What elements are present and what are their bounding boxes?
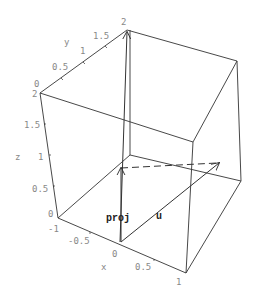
y-tick-2: 2 (121, 17, 126, 27)
z-tick-2: 2 (32, 89, 37, 99)
x-tick-1: 1 (176, 277, 181, 287)
x-tick-0.5: 0.5 (135, 262, 151, 272)
y-tick-1.5: 1.5 (93, 31, 109, 41)
x-axis-label: x (101, 262, 107, 272)
y-tick-1: 1 (80, 46, 85, 56)
x-tick--1: -1 (48, 224, 59, 234)
z-tick-1.5: 1.5 (24, 120, 40, 130)
vectors (120, 32, 219, 242)
y-axis-label: y (64, 37, 70, 47)
y-tick-0.5: 0.5 (52, 62, 68, 72)
u-label: u (156, 211, 162, 222)
x-tick-0: 0 (112, 249, 117, 259)
z-tick-0.5: 0.5 (32, 184, 48, 194)
x-tick--0.5: -0.5 (68, 236, 90, 246)
z-tick-0: 0 (48, 209, 53, 219)
proj-label: proj (106, 213, 130, 224)
3d-plot: proj u 0 0.5 1 1.5 2 y 2 1.5 1 0.5 0 z -… (0, 0, 269, 298)
z-axis-label: z (15, 152, 20, 162)
z-tick-1: 1 (38, 152, 43, 162)
y-tick-0: 0 (34, 79, 39, 89)
u-vector (121, 163, 219, 242)
